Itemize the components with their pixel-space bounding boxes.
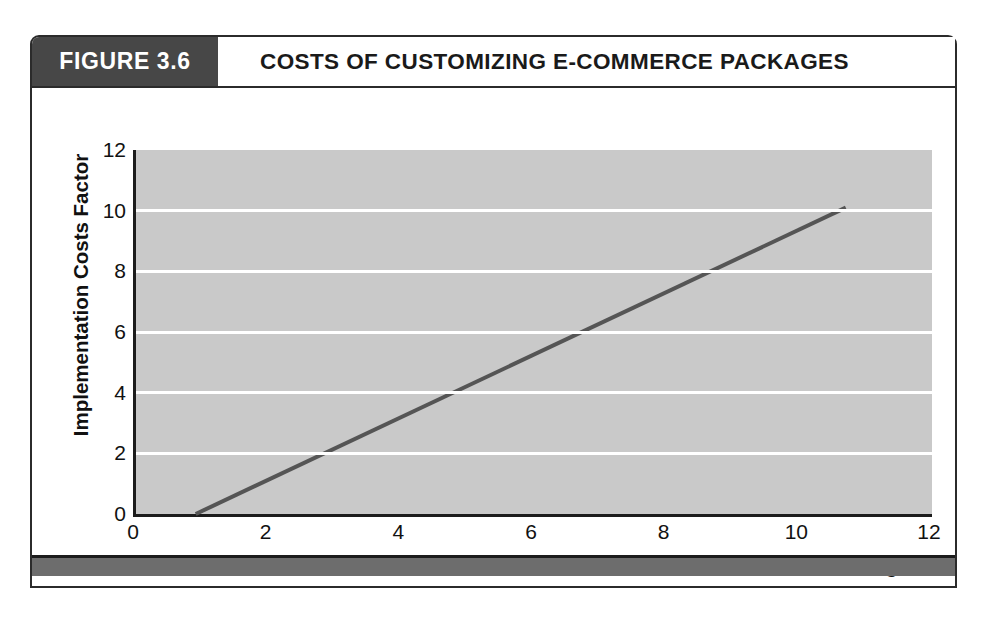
x-tick-label: 10 — [774, 520, 818, 544]
series-line — [196, 208, 846, 514]
y-tick-label: 10 — [86, 199, 126, 223]
figure-title: COSTS OF CUSTOMIZING E-COMMERCE PACKAGES — [218, 37, 955, 86]
y-axis-tick-labels: 024681012 — [80, 150, 126, 514]
y-tick-label: 2 — [86, 441, 126, 465]
gridline — [136, 209, 932, 212]
gridline — [136, 270, 932, 273]
x-tick-label: 4 — [376, 520, 420, 544]
figure-header: FIGURE 3.6 COSTS OF CUSTOMIZING E-COMMER… — [32, 37, 955, 86]
plot-panel — [133, 150, 932, 517]
y-tick-label: 4 — [86, 381, 126, 405]
gridline — [136, 452, 932, 455]
x-tick-label: 8 — [642, 520, 686, 544]
gridline — [136, 331, 932, 334]
y-tick-label: 12 — [86, 138, 126, 162]
figure-frame: FIGURE 3.6 COSTS OF CUSTOMIZING E-COMMER… — [30, 35, 957, 588]
x-axis-tick-labels: 024681012 — [133, 520, 929, 554]
x-tick-label: 6 — [509, 520, 553, 544]
x-tick-label: 0 — [111, 520, 155, 544]
figure-bottom-bar — [32, 555, 955, 576]
x-tick-label: 2 — [244, 520, 288, 544]
x-tick-label: 12 — [907, 520, 951, 544]
chart-area: Implementation Costs Factor 024681012 02… — [32, 88, 955, 564]
gridline — [136, 391, 932, 394]
y-tick-label: 8 — [86, 259, 126, 283]
y-tick-label: 6 — [86, 320, 126, 344]
figure-page: FIGURE 3.6 COSTS OF CUSTOMIZING E-COMMER… — [0, 0, 985, 620]
figure-number-badge: FIGURE 3.6 — [32, 37, 218, 86]
